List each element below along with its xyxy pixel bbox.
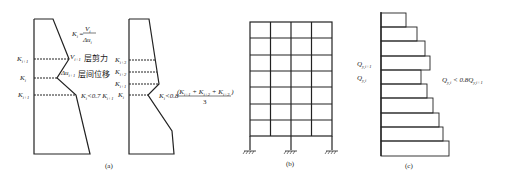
svg-text:Ki<0.8: Ki<0.8 [158, 92, 179, 101]
drift-text: 层间位移 [78, 69, 110, 79]
panel-a-right-labels: Ki+3 Ki+2 Ki+1 Ki Ki<0.8 (Ki+1 + Ki+2 + … [114, 56, 234, 106]
shear-symbol: Vi+1 [70, 53, 81, 62]
svg-text:(Ki+1 + Ki+2 + Ki+3 ): (Ki+1 + Ki+2 + Ki+3 ) [177, 88, 234, 97]
fixed-support-icon [325, 151, 338, 154]
fixed-support-icon [243, 151, 256, 154]
label-k-i-right: Ki [117, 91, 125, 100]
label-k-i1: Ki+1 [114, 80, 126, 89]
panel-a-right-profile [129, 19, 174, 154]
svg-text:3: 3 [203, 98, 207, 106]
label-k-i: Ki [19, 74, 27, 83]
caption-c: (c) [405, 162, 413, 170]
label-k-i2: Ki+2 [114, 68, 127, 77]
shear-text: 层剪力 [84, 53, 108, 63]
drift-symbol: Δui+1 [60, 69, 75, 78]
soft-story-condition-a: Ki<0.7 Ki+1 [80, 92, 113, 101]
panel-a-left-labels: Ki+1 Ki Ki+1 Ki= Vi Δui Vi+1 层剪力 Δui+1 层… [16, 25, 113, 101]
panel-c-bars [381, 12, 449, 156]
svg-text:Vi: Vi [85, 25, 91, 34]
caption-b: (b) [286, 160, 295, 168]
caption-a: (a) [105, 162, 113, 170]
label-k-upper: Ki+1 [16, 55, 28, 64]
label-k-i3: Ki+3 [114, 56, 127, 65]
label-q-upper: Qy,i+1 [357, 60, 371, 70]
weak-story-condition: Qy,i < 0.8Qy,i+1 [442, 76, 483, 86]
fixed-support-icon [284, 151, 297, 154]
svg-text:Ki=: Ki= [71, 30, 84, 39]
label-k-lower: Ki+1 [17, 91, 29, 100]
diagram-canvas: Ki+1 Ki Ki+1 Ki= Vi Δui Vi+1 层剪力 Δui+1 层… [0, 0, 511, 177]
panel-c-labels: Qy,i+1 Qy,i Qy,i < 0.8Qy,i+1 [357, 60, 483, 86]
svg-text:Δui: Δui [82, 36, 93, 45]
panel-b-frame [250, 22, 332, 150]
stiffness-formula: Ki= Vi Δui [71, 25, 96, 45]
soft-story-condition-b: Ki<0.8 (Ki+1 + Ki+2 + Ki+3 ) 3 [158, 88, 234, 106]
fixed-support-icons [243, 151, 338, 154]
panel-a-left-profile [34, 19, 90, 154]
label-q-lower: Qy,i [357, 74, 367, 84]
